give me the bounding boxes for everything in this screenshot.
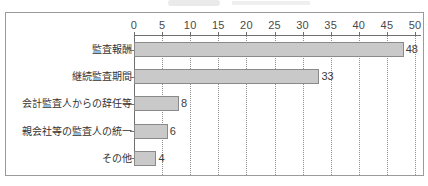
gridline <box>415 36 416 175</box>
bar <box>134 69 319 84</box>
x-axis-tick-label: 10 <box>175 19 205 32</box>
x-axis-tick-label: 45 <box>372 19 402 32</box>
x-axis-tick-label: 25 <box>260 19 290 32</box>
category-label: その他 <box>102 153 132 165</box>
x-axis-tick-label: 5 <box>147 19 177 32</box>
category-label: 継続監査期間 <box>72 71 132 83</box>
top-edge-artifact-secondary <box>232 1 310 5</box>
x-axis-tick-label: 0 <box>119 19 149 32</box>
x-axis-tick-label: 30 <box>288 19 318 32</box>
x-axis-tick-label: 35 <box>316 19 346 32</box>
chart-plot-area: 05101520253035404550 監査報酬継続監査期間会計監査人からの辞… <box>6 13 425 177</box>
x-axis-tick-label: 50 <box>400 19 428 32</box>
bar <box>134 151 156 166</box>
bar-value-label: 6 <box>170 125 176 138</box>
x-axis-tick-label: 40 <box>344 19 374 32</box>
chart-frame: 05101520253035404550 監査報酬継続監査期間会計監査人からの辞… <box>5 12 424 176</box>
category-label: 親会社等の監査人の統一 <box>22 126 132 138</box>
value-axis-line <box>134 35 421 36</box>
x-axis-tick-label: 15 <box>203 19 233 32</box>
bar-value-label: 48 <box>406 43 418 56</box>
top-edge-artifact <box>168 0 220 6</box>
bar <box>134 42 404 57</box>
bar-value-label: 4 <box>158 152 164 165</box>
x-axis-tick-label: 20 <box>231 19 261 32</box>
category-label: 会計監査人からの辞任等 <box>22 98 132 110</box>
x-axis-tick-mark <box>134 32 135 36</box>
bar-value-label: 8 <box>181 97 187 110</box>
category-label: 監査報酬 <box>92 44 132 56</box>
bar-value-label: 33 <box>321 70 333 83</box>
bar <box>134 96 179 111</box>
bar <box>134 124 168 139</box>
